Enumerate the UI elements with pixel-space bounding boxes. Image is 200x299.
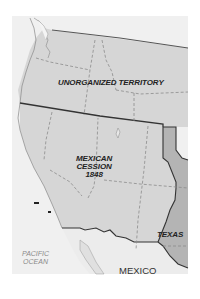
label-texas: TEXAS	[157, 230, 183, 239]
label-pacific-ocean: PACIFIC OCEAN	[22, 250, 49, 266]
channel-island	[34, 202, 39, 204]
label-mexico: MEXICO	[119, 265, 156, 276]
historical-map: UNORGANIZED TERRITORY MEXICAN CESSION 18…	[0, 0, 200, 299]
label-unorganized-territory: UNORGANIZED TERRITORY	[58, 78, 164, 87]
channel-island	[48, 211, 51, 213]
label-ocean-line1: PACIFIC	[22, 250, 49, 258]
label-cession-line3: 1848	[76, 171, 112, 179]
label-mexican-cession: MEXICAN CESSION 1848	[76, 155, 112, 179]
label-ocean-line2: OCEAN	[22, 258, 49, 266]
